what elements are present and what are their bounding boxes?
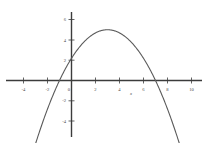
x-axis-tick-labels: -4 -2 0 2 4 6 8 10 [22,87,195,92]
y-tick-label--2: -2 [62,98,67,103]
x-tick-label-10: 10 [189,87,194,92]
x-axis-label: x [129,91,132,96]
y-tick-label-4: 4 [64,38,67,43]
x-tick-label-0: 0 [68,87,71,92]
y-tick-label--4: -4 [62,119,67,124]
y-tick-label-2: 2 [64,58,67,63]
y-tick-label-6: 6 [64,17,67,22]
x-tick-label--4: -4 [22,87,27,92]
graph-canvas: -4 -2 0 2 4 6 8 10 6 4 2 -2 -4 x [0,0,208,143]
x-tick-label-4: 4 [118,87,121,92]
x-tick-label-8: 8 [166,87,169,92]
parabola-curve [35,30,180,143]
parabola-plot: -4 -2 0 2 4 6 8 10 6 4 2 -2 -4 x [0,0,208,143]
x-tick-label-6: 6 [142,87,145,92]
x-tick-label-2: 2 [94,87,97,92]
x-tick-label--2: -2 [46,87,51,92]
